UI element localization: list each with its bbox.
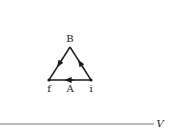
v-axis-label: V xyxy=(156,119,163,129)
vertex-label-i: i xyxy=(89,84,92,94)
vertex-dot-i xyxy=(89,78,92,81)
path-diagram xyxy=(0,0,169,136)
arrow-icon-b-to-f xyxy=(59,58,63,64)
vertex-dot-f xyxy=(47,78,50,81)
vertex-label-b: B xyxy=(66,34,73,44)
vertex-label-f: f xyxy=(47,84,51,94)
path-label-a: A xyxy=(66,84,73,94)
arrow-icon-i-to-b xyxy=(80,63,84,69)
